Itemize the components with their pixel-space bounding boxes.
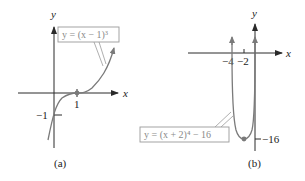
callout-leader-b: [215, 112, 233, 127]
y-axis-label-a: y: [50, 8, 56, 20]
caption-b: (b): [248, 157, 261, 170]
tick-label-y-b: −16: [262, 133, 280, 145]
equation-a: y = (x − 1)³: [62, 29, 108, 41]
x-axis-label-a: x: [122, 87, 128, 99]
curve-cubic: [48, 48, 114, 140]
callout-leader-a: [94, 42, 106, 66]
tick-label-y-a: −1: [36, 109, 48, 121]
point-min: [242, 137, 247, 142]
y-axis-label-b: y: [251, 7, 257, 19]
caption-a: (a): [54, 157, 67, 170]
tick-label-x-a: 1: [74, 98, 80, 110]
equation-b: y = (x + 2)⁴ − 16: [144, 129, 211, 141]
panel-b: x y −4 −2 −16 y = (x + 2)⁴ − 16 (b): [140, 7, 291, 170]
panel-a: x y 1 −1 y = (x − 1)³ (a): [18, 8, 128, 170]
x-axis-label-b: x: [285, 47, 291, 59]
figure-canvas: x y 1 −1 y = (x − 1)³ (a) x y −4 −2 −16: [0, 0, 305, 181]
point-1-0: [75, 91, 80, 96]
tick-label-x-neg2-b: −2: [237, 55, 249, 67]
